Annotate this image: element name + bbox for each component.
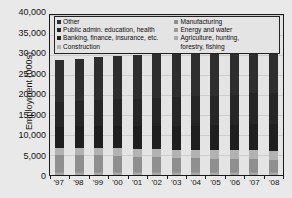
x-tick-mark (128, 176, 129, 179)
x-tick-mark (108, 176, 109, 179)
legend-swatch-icon (174, 28, 178, 32)
bar-segment (113, 126, 122, 148)
y-tick-label: 25,000 (8, 69, 46, 79)
bar-segment (172, 158, 181, 172)
y-tick-label: 20,000 (8, 89, 46, 99)
bar-segment (113, 156, 122, 172)
bar-column (172, 53, 181, 175)
bar-segment (55, 148, 64, 155)
legend-swatch-icon (57, 36, 61, 40)
x-tick-label: '08 (265, 178, 283, 187)
bar-segment (230, 150, 239, 159)
legend-item-public-admin: Public admin. education, health (57, 26, 174, 34)
bar-segment (55, 60, 64, 102)
bar-segment (152, 54, 161, 99)
x-tick-mark (69, 176, 70, 179)
bar-segment (133, 149, 142, 157)
x-tick-label: '07 (246, 178, 264, 187)
bar-segment (94, 173, 103, 175)
bar-segment (75, 155, 84, 172)
bar-segment (191, 173, 200, 175)
bar-column (191, 51, 200, 175)
y-tick-label: 15,000 (8, 110, 46, 120)
bar-segment (75, 101, 84, 126)
bar-segment (55, 102, 64, 127)
bar-segment (94, 155, 103, 171)
legend-swatch-icon (57, 28, 61, 32)
x-tick-label: '05 (206, 178, 224, 187)
bar-column (113, 56, 122, 175)
chart-legend: Other Public admin. education, health Ba… (54, 16, 280, 54)
bar-segment (113, 99, 122, 125)
x-tick-label: '00 (109, 178, 127, 187)
bar-segment (133, 157, 142, 172)
bar-segment (210, 50, 219, 96)
legend-swatch-icon (57, 45, 61, 49)
bar-segment (210, 159, 219, 172)
bar-segment (191, 51, 200, 96)
legend-label: Other (63, 18, 80, 26)
bar-segment (55, 173, 64, 175)
bar-segment (191, 126, 200, 150)
bar-segment (269, 173, 278, 175)
x-tick-mark (225, 176, 226, 179)
employment-stacked-bar-chart: Employment (000s) 40,000 35,000 30,000 2… (0, 0, 292, 198)
legend-item-manufacturing: Manufacturing (174, 18, 278, 26)
bar-segment (249, 150, 258, 159)
x-tick-label: '02 (148, 178, 166, 187)
bar-segment (230, 125, 239, 151)
bar-segment (75, 59, 84, 102)
x-tick-label: '01 (128, 178, 146, 187)
legend-item-banking: Banking, finance, insurance, etc. (57, 34, 174, 42)
bar-segment (269, 124, 278, 151)
bar-segment (94, 126, 103, 148)
bar-segment (230, 95, 239, 125)
x-tick-mark (283, 176, 284, 179)
bar-segment (152, 149, 161, 157)
bar-column (152, 54, 161, 175)
bar-segment (113, 148, 122, 156)
y-axis-tick-labels: 40,000 35,000 30,000 25,000 20,000 15,00… (8, 12, 46, 176)
legend-item-other: Other (57, 18, 174, 26)
x-tick-mark (244, 176, 245, 179)
bar-segment (152, 173, 161, 175)
x-tick-label: '98 (69, 178, 87, 187)
bar-segment (191, 158, 200, 172)
x-tick-label: '04 (187, 178, 205, 187)
legend-label: Construction (63, 43, 100, 51)
bar-column (94, 57, 103, 175)
bar-segment (249, 124, 258, 150)
bar-segment (210, 96, 219, 126)
x-tick-mark (50, 176, 51, 179)
x-tick-mark (147, 176, 148, 179)
x-tick-label: '06 (226, 178, 244, 187)
x-tick-label: '97 (50, 178, 68, 187)
bar-segment (152, 157, 161, 172)
bar-segment (230, 173, 239, 175)
x-tick-label: '03 (167, 178, 185, 187)
y-tick-label: 10,000 (8, 130, 46, 140)
bar-column (133, 55, 142, 175)
legend-swatch-icon (57, 20, 61, 24)
y-tick-label: 0 (8, 171, 46, 181)
legend-item-agriculture: Agriculture, hunting, forestry, fishing (174, 34, 278, 50)
bar-segment (75, 126, 84, 147)
legend-swatch-icon (174, 20, 178, 24)
legend-label: Banking, finance, insurance, etc. (63, 34, 158, 42)
bar-column (230, 49, 239, 175)
x-axis-tick-labels: '97'98'99'00'01'02'03'04'05'06'07'08 (49, 178, 284, 187)
bar-segment (133, 55, 142, 99)
bar-segment (94, 57, 103, 100)
legend-label: Energy and water (180, 26, 232, 34)
y-tick-label: 30,000 (8, 48, 46, 58)
bar-segment (172, 97, 181, 126)
legend-label: Public admin. education, health (63, 26, 155, 34)
legend-label: Agriculture, hunting, forestry, fishing (180, 34, 239, 50)
bar-segment (94, 148, 103, 156)
x-tick-mark (89, 176, 90, 179)
bar-segment (230, 159, 239, 172)
bar-column (249, 47, 258, 175)
bar-segment (210, 150, 219, 158)
bar-column (55, 60, 64, 175)
bar-segment (133, 126, 142, 149)
